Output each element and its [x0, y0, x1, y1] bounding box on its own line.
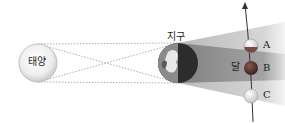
earth-label: 지구 [167, 32, 185, 42]
position-a-label: A [263, 40, 270, 50]
earth [158, 43, 198, 83]
moon-position-c [244, 89, 258, 103]
lunar-eclipse-diagram: 태양 지구 달 A B C [0, 0, 285, 124]
orbit-arrow-icon [242, 2, 248, 9]
moon-position-b [244, 61, 258, 75]
moon-label: 달 [231, 62, 240, 72]
sun-label: 태양 [28, 57, 46, 67]
light-rays [38, 43, 178, 83]
position-b-label: B [263, 63, 270, 73]
position-c-label: C [263, 90, 271, 100]
